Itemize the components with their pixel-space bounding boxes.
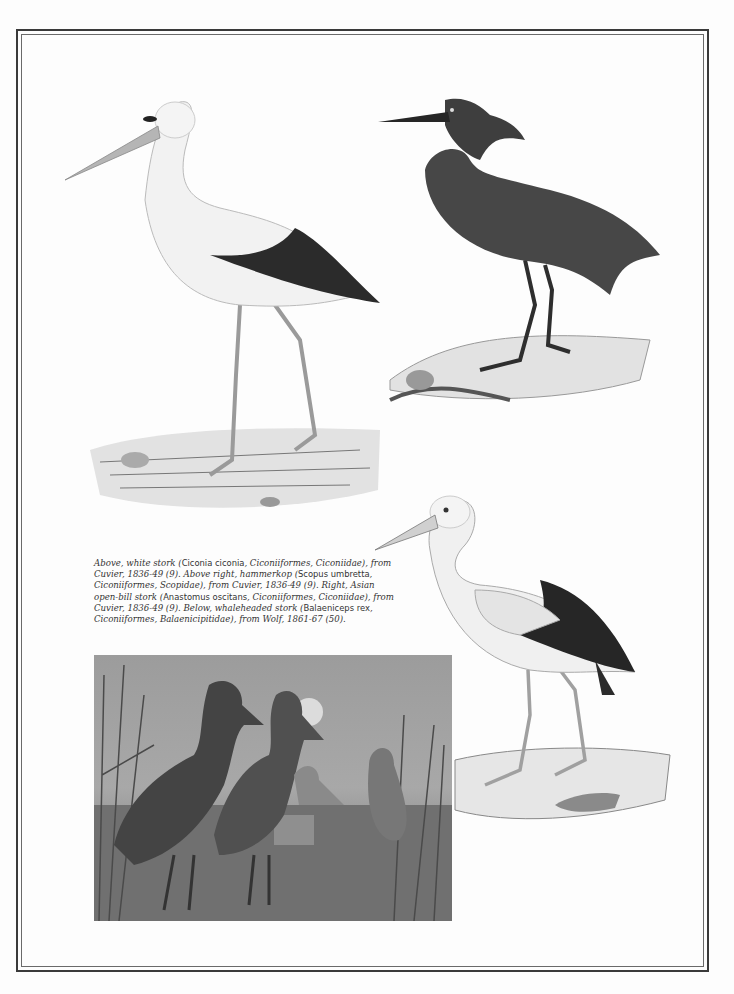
caption-species-name: Ciconia ciconia bbox=[182, 558, 245, 568]
figure-caption: Above, white stork (Ciconia ciconia, Cic… bbox=[94, 558, 394, 625]
caption-species-name: Scopus umbretta bbox=[298, 569, 370, 579]
caption-species-name: Anastomus oscitans bbox=[163, 592, 247, 602]
whaleheaded-stork-painting bbox=[94, 655, 452, 921]
caption-species-name: Balaeniceps rex bbox=[303, 603, 369, 613]
hammerkop-illustration bbox=[370, 90, 670, 420]
caption-text: Above, white stork ( bbox=[94, 558, 182, 568]
white-stork-illustration bbox=[60, 90, 390, 520]
